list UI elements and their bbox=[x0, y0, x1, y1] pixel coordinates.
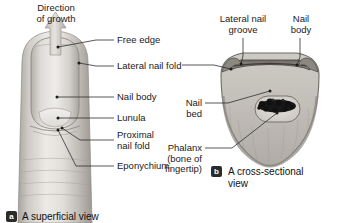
panel-caption-b: A cross-sectional view bbox=[228, 166, 304, 189]
label-lateral-nail-groove: Lateral nail groove bbox=[207, 14, 279, 35]
label-phalanx: Phalanx (bone of fingertip) bbox=[133, 143, 202, 175]
panel-caption-a: A superficial view bbox=[22, 211, 99, 223]
fingertip-crosssection-illustration bbox=[221, 53, 321, 168]
label-free-edge: Free edge bbox=[117, 35, 160, 46]
label-nail-body-crosssection: Nail body bbox=[284, 14, 318, 35]
nail-anatomy-figure: Direction of growth Free edge Lateral na… bbox=[0, 0, 339, 223]
label-lateral-nail-fold: Lateral nail fold bbox=[117, 61, 181, 72]
label-lunula: Lunula bbox=[117, 113, 146, 124]
label-direction-of-growth: Direction of growth bbox=[10, 3, 102, 24]
panel-badge-b: b bbox=[211, 166, 222, 177]
panel-badge-a: a bbox=[6, 211, 17, 222]
fingertip-superficial-illustration bbox=[18, 12, 92, 223]
label-nail-bed: Nail bed bbox=[143, 98, 202, 119]
